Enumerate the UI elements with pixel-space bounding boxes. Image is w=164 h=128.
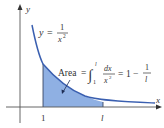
- area-under-curve-diagram: y x 1 l y = 1 x 2 Area = ∫ l 1 dx x 2 = …: [0, 0, 164, 128]
- svg-text:1: 1: [145, 63, 149, 72]
- curve-equation: y = 1 x 2: [38, 22, 68, 44]
- svg-text:=: =: [118, 69, 123, 79]
- svg-text:y: y: [38, 27, 44, 38]
- tick-one: 1: [41, 113, 46, 123]
- svg-text:1: 1: [60, 22, 64, 32]
- y-axis-arrow-icon: [18, 4, 23, 10]
- svg-text:l: l: [95, 61, 97, 67]
- x-axis-label: x: [155, 95, 160, 105]
- svg-text:2: 2: [109, 75, 112, 80]
- svg-text:−: −: [133, 69, 138, 79]
- svg-text:=: =: [47, 27, 53, 38]
- svg-text:1: 1: [126, 69, 131, 79]
- tick-l: l: [101, 113, 104, 123]
- svg-text:=: =: [81, 68, 86, 78]
- y-axis-label: y: [25, 4, 30, 14]
- svg-text:l: l: [145, 75, 148, 84]
- svg-text:x: x: [57, 34, 62, 44]
- svg-text:1: 1: [93, 79, 96, 85]
- svg-text:2: 2: [63, 33, 66, 39]
- x-axis-arrow-icon: [156, 105, 162, 110]
- svg-text:Area: Area: [58, 68, 77, 78]
- area-equation: Area = ∫ l 1 dx x 2 = 1 − 1 l: [58, 61, 151, 85]
- svg-text:x: x: [103, 76, 108, 85]
- svg-text:dx: dx: [104, 64, 112, 73]
